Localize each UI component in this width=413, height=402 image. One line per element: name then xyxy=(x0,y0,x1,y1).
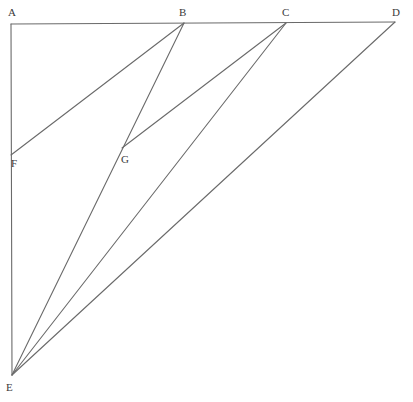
segment-AD xyxy=(11,22,395,24)
label-point-d: D xyxy=(392,6,400,18)
segment-CE xyxy=(12,23,286,375)
segment-GC xyxy=(122,23,286,148)
segment-FB xyxy=(11,23,184,155)
label-point-e: E xyxy=(6,381,13,393)
segment-DE xyxy=(12,22,395,375)
line-segments xyxy=(11,22,395,375)
label-point-c: C xyxy=(282,6,289,18)
label-point-f: F xyxy=(11,157,17,169)
label-point-a: A xyxy=(8,6,16,18)
label-point-b: B xyxy=(179,6,186,18)
label-point-g: G xyxy=(121,153,129,165)
segment-BE xyxy=(12,23,184,375)
segment-AE xyxy=(11,24,12,375)
geometry-diagram: A B C D F G E xyxy=(0,0,413,402)
